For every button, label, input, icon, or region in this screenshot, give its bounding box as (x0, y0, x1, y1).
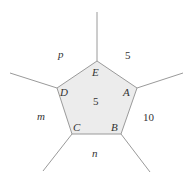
vertex-label-E: E (91, 66, 99, 78)
vertex-label-A: A (122, 86, 130, 98)
region-label-top-right: 5 (125, 49, 131, 61)
region-label-top-left: p (57, 48, 64, 60)
vertex-label-D: D (59, 86, 68, 98)
vertex-label-B: B (111, 121, 118, 133)
ray-from-A (137, 73, 183, 88)
ray-from-D (10, 73, 57, 88)
ray-from-B (121, 134, 150, 172)
region-label-right: 10 (143, 111, 155, 123)
vertex-label-C: C (73, 121, 81, 133)
region-label-bottom: n (92, 147, 98, 159)
ray-from-C (43, 134, 72, 171)
pentagon-diagram: E D A C B 5 5 10 n m p (0, 0, 195, 181)
region-label-center: 5 (93, 95, 99, 107)
diagram-svg: E D A C B 5 5 10 n m p (0, 0, 195, 181)
region-label-left: m (37, 110, 45, 122)
